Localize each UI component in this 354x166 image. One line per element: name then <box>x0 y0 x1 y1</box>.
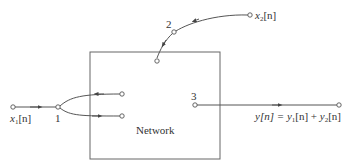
network-diagram: 2 1 3 Network x2[n] x1[n] y[n] = y1[n] +… <box>0 0 354 166</box>
x1-node <box>11 105 15 109</box>
output-node <box>337 103 341 107</box>
box-top-node <box>155 59 159 63</box>
node-2-label: 2 <box>166 18 172 30</box>
node1-branches <box>60 92 124 118</box>
input-x1-branch <box>11 105 60 109</box>
node-3 <box>193 103 197 107</box>
node-1-label: 1 <box>55 112 61 124</box>
output-branch <box>193 103 341 107</box>
network-label: Network <box>136 124 175 136</box>
node-3-label: 3 <box>191 90 197 102</box>
output-equation: y[n] = y1[n] + y2[n] <box>254 110 341 124</box>
node-1 <box>56 105 60 109</box>
x1-label: x1[n] <box>9 112 31 126</box>
x2-label: x2[n] <box>254 9 276 23</box>
box-input-node-upper <box>120 92 124 96</box>
x2-node <box>248 13 252 17</box>
box-input-node-lower <box>120 114 124 118</box>
node-2 <box>172 30 176 34</box>
